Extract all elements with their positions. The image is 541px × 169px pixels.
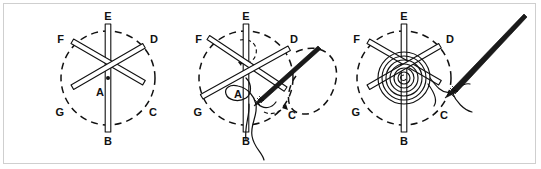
panel-1-label-F: F [57, 33, 64, 45]
panel-3-label-B: B [400, 135, 408, 147]
panel-1-label-A: A [96, 86, 104, 98]
panel-1-label-C: C [149, 106, 157, 118]
panel-2: E D C B G F A [193, 10, 336, 160]
panel-2-label-G: G [193, 106, 202, 118]
panel-3-label-F: F [353, 33, 360, 45]
panel-2-label-E: E [242, 10, 249, 22]
thread-tail [252, 104, 264, 160]
panel-2-fabric-dashed-outline [288, 48, 336, 114]
diagram-canvas: E D C B G F A [0, 0, 541, 169]
thread-branch-to-C [428, 84, 436, 106]
panel-3-label-E: E [400, 10, 407, 22]
panel-1-label-B: B [104, 135, 112, 147]
panel-3-label-C: C [440, 109, 448, 121]
spoke-vertical-E-B [401, 24, 407, 132]
needle-shaft [452, 14, 527, 92]
thread-loose-tail [452, 92, 472, 112]
needle-thread-through-eye [258, 102, 276, 108]
panel-1-label-G: G [55, 106, 64, 118]
panel-1: E D C B G F A [55, 10, 158, 147]
figure-root: Woven Spider Web Stitch E D C B G F A [0, 0, 541, 169]
panel-1-label-E: E [104, 10, 111, 22]
panel-2-label-F: F [195, 33, 202, 45]
panel-2-label-A: A [234, 88, 242, 100]
panel-3: E D C B G F [351, 10, 527, 147]
panel-1-center-point [106, 76, 110, 80]
panel-2-label-B: B [242, 135, 250, 147]
panel-3-label-D: D [446, 33, 454, 45]
panel-1-label-D: D [150, 33, 158, 45]
panel-2-label-C: C [288, 109, 296, 121]
panel-3-label-G: G [351, 106, 360, 118]
panel-1-spokes [71, 24, 145, 132]
panel-2-label-D: D [290, 33, 298, 45]
panel-3-needle [445, 14, 527, 98]
panel-2-needle-path-hint [264, 104, 286, 114]
